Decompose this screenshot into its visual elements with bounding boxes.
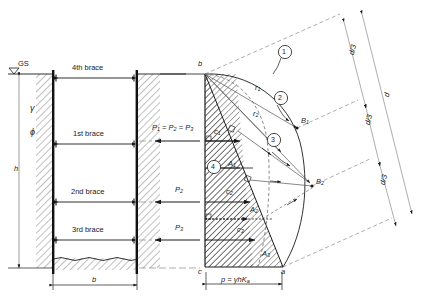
point-B1-label: B1 bbox=[301, 117, 309, 125]
unit-weight-label: γ bbox=[30, 104, 35, 113]
area-A2-label: A2 bbox=[250, 206, 258, 214]
ground-surface-label: GS bbox=[18, 60, 29, 68]
brace-endplates bbox=[56, 75, 134, 244]
leader-step-1 bbox=[273, 58, 281, 74]
ray-arrow-1 bbox=[262, 148, 271, 155]
step-number-2: 2 bbox=[278, 94, 282, 101]
wall-left bbox=[52, 70, 54, 274]
point-b-label: b bbox=[198, 60, 202, 68]
right-wedge-group bbox=[139, 14, 412, 290]
point-a-label: a bbox=[281, 268, 285, 276]
depth-h-label: h bbox=[14, 165, 18, 173]
centroid-c3-label: c3 bbox=[237, 226, 244, 234]
area-A1-label: A1 bbox=[228, 160, 236, 168]
brace-label-2: 2nd brace bbox=[71, 188, 104, 196]
area-A3-label: A3 bbox=[262, 250, 270, 258]
ray-plane-2 bbox=[250, 180, 312, 186]
wall-right bbox=[136, 70, 138, 274]
centroid-c2-label: c2 bbox=[226, 188, 233, 196]
figure-canvas: GS γ ϕ h b 4th brace 1st brace 2nd brace… bbox=[0, 0, 433, 298]
force-P3-label: P3 bbox=[175, 224, 183, 232]
brace-label-4: 4th brace bbox=[72, 64, 103, 72]
point-c-label: c bbox=[198, 268, 202, 276]
left-excavation-group bbox=[8, 68, 186, 290]
dim-label-d-third-1: d/3 bbox=[348, 44, 358, 56]
step-number-1: 1 bbox=[282, 48, 286, 55]
point-B1-dot bbox=[295, 126, 298, 129]
step-number-3: 3 bbox=[271, 136, 275, 143]
dim-label-d-third-2: d/3 bbox=[364, 114, 374, 126]
ground-surface-marker-icon bbox=[9, 68, 19, 74]
soil-left-hatch bbox=[36, 74, 52, 268]
force-P2-label: P2 bbox=[175, 186, 183, 194]
force-equality-label: P1 = P2 = P3 bbox=[152, 124, 193, 132]
soil-right-hatch bbox=[138, 74, 160, 268]
dim-label-d-third-3: d/3 bbox=[379, 174, 389, 186]
radius-r2-label: r2 bbox=[253, 110, 259, 118]
centroid-c1-label: c1 bbox=[214, 128, 221, 136]
diagram-vector bbox=[0, 0, 433, 298]
friction-angle-label: ϕ bbox=[30, 128, 35, 137]
ray-arrow-3 bbox=[287, 199, 297, 205]
point-B2-label: B2 bbox=[316, 178, 324, 186]
leader-step-2 bbox=[277, 105, 289, 121]
brace-label-3: 3rd brace bbox=[72, 226, 104, 234]
step-number-4: 4 bbox=[211, 163, 215, 170]
radius-r1-label: r1 bbox=[255, 84, 261, 92]
dim-d-third-1 bbox=[344, 22, 366, 108]
width-b-label: b bbox=[92, 276, 96, 284]
pressure-formula-label: p = γhKa bbox=[221, 276, 250, 284]
brace-label-1: 1st brace bbox=[73, 130, 104, 138]
point-B2-dot bbox=[310, 184, 313, 187]
